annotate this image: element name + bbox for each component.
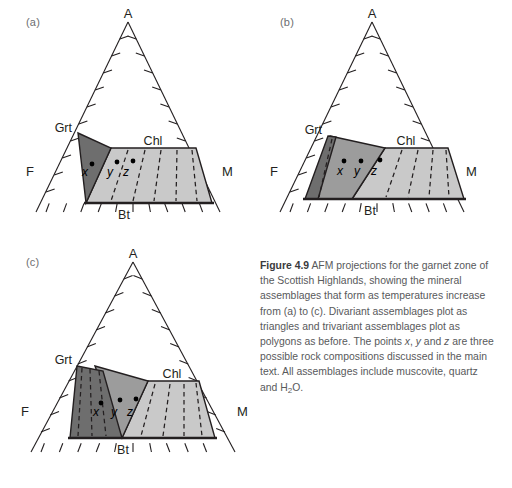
ternary-diagram-b: x y z A F M Grt Chl Bt: [256, 0, 512, 244]
panel-a-label: (a): [26, 16, 40, 28]
mineral-label-chl: Chl: [163, 367, 182, 381]
panel-a: (a): [0, 0, 256, 244]
mineral-label-bt: Bt: [364, 204, 376, 218]
vertex-label-m: M: [222, 164, 233, 179]
point-label-z: z: [126, 405, 133, 419]
vertex-label-a: A: [129, 246, 138, 261]
point-dot-y: [359, 159, 364, 164]
ternary-diagram-a: x y z A F M Grt Chl Bt: [0, 0, 256, 244]
vertex-label-m: M: [237, 404, 248, 419]
point-label-y: y: [106, 165, 114, 179]
caption-text-3: and: [421, 336, 444, 347]
vertex-label-f: F: [270, 164, 278, 179]
vertex-label-a: A: [124, 6, 133, 21]
figure-caption: Figure 4.9 AFM projections for the garne…: [256, 244, 512, 488]
point-dot-y: [115, 160, 120, 165]
mineral-label-bt: Bt: [117, 443, 129, 457]
point-label-x: x: [81, 165, 89, 179]
point-dot-x: [342, 159, 347, 164]
point-dot-z: [131, 159, 136, 164]
point-label-y: y: [353, 164, 361, 178]
point-dot-x: [99, 401, 104, 406]
point-label-z: z: [370, 164, 377, 178]
vertex-label-f: F: [26, 164, 34, 179]
panel-b-label: (b): [280, 16, 294, 28]
point-label-x: x: [336, 164, 344, 178]
mineral-label-grt: Grt: [55, 353, 73, 367]
point-dot-x: [90, 162, 95, 167]
point-label-z: z: [122, 165, 129, 179]
mineral-label-chl: Chl: [144, 134, 163, 148]
caption-figure-number: Figure 4.9: [260, 260, 309, 271]
panel-c: (c): [0, 244, 256, 488]
point-dot-y: [118, 398, 123, 403]
panel-b: (b): [256, 0, 512, 244]
point-label-y: y: [110, 405, 118, 419]
vertex-label-f: F: [21, 404, 29, 419]
figure-grid: (a): [0, 0, 512, 488]
assemblage-fields-b: [305, 136, 464, 199]
point-dot-z: [378, 158, 383, 163]
vertex-label-m: M: [466, 164, 477, 179]
mineral-label-grt: Grt: [305, 123, 323, 137]
ternary-diagram-c: x y z A F M Grt Chl Bt: [0, 244, 256, 488]
caption-text-1: AFM projections for the garnet zone of t…: [260, 260, 488, 347]
caption-text-5: O.: [292, 382, 303, 393]
panel-c-label: (c): [26, 256, 39, 268]
caption-paragraph: Figure 4.9 AFM projections for the garne…: [260, 258, 494, 398]
vertex-label-a: A: [368, 6, 377, 21]
mineral-label-grt: Grt: [55, 121, 73, 135]
mineral-label-bt: Bt: [118, 208, 130, 222]
point-label-x: x: [92, 405, 100, 419]
point-dot-z: [134, 397, 139, 402]
mineral-label-chl: Chl: [397, 134, 416, 148]
